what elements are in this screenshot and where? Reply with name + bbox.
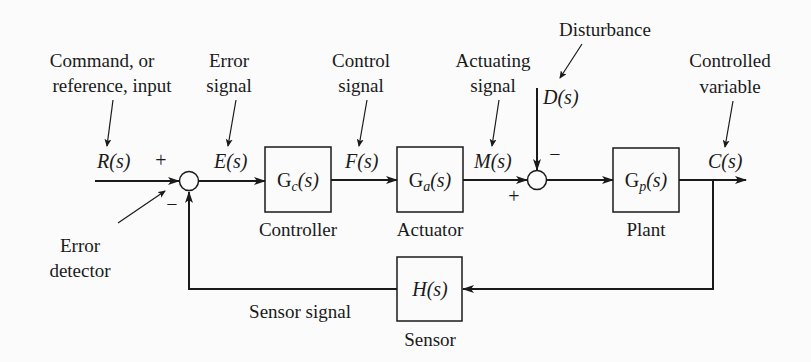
plant-block: Gp(s) Plant [613,148,679,240]
control-block-diagram: Command, or reference, input Error signa… [0,0,811,362]
svg-text:variable: variable [699,76,760,97]
svg-text:signal: signal [338,75,383,96]
annotation-controlled-variable: Controlled variable [689,50,771,147]
sensor-block: H(s) Sensor [397,257,462,350]
svg-text:H(s): H(s) [411,278,448,301]
svg-text:Control: Control [332,50,390,71]
annotation-control-signal: Control signal [332,50,390,146]
svg-text:Gp(s): Gp(s) [625,169,668,194]
pointer-arrow-icon [228,100,236,146]
block-label: Controller [259,219,338,240]
svg-text:detector: detector [49,260,111,281]
block-label: Actuator [397,219,464,240]
svg-text:Command, or: Command, or [50,50,155,71]
svg-text:Error: Error [60,235,101,256]
svg-text:Ga(s): Ga(s) [409,169,452,194]
sign-plus-actuating: + [508,185,519,207]
svg-text:reference, input: reference, input [52,75,172,96]
svg-text:signal: signal [470,75,515,96]
controller-block: Gc(s) Controller [259,147,338,240]
disturbance-summing-junction [528,171,547,190]
actuator-block: Ga(s) Actuator [397,147,464,240]
annotation-error-signal: Error signal [206,50,251,146]
pointer-arrow-icon [492,100,499,146]
svg-text:Controlled: Controlled [689,50,771,71]
sensor-signal-label: Sensor signal [249,301,351,322]
annotation-actuating-signal: Actuating signal [456,50,531,146]
svg-text:Error: Error [209,50,250,71]
svg-text:Gc(s): Gc(s) [277,169,319,194]
sign-minus-disturbance: − [549,143,560,165]
svg-text:signal: signal [206,75,251,96]
pointer-arrow-icon [107,100,113,146]
pointer-arrow-icon [359,100,367,146]
annotation-error-detector: Error detector [49,191,165,281]
signal-label-actuating: M(s) [473,150,512,173]
feedback-to-sensor-line [463,180,713,289]
block-label: Sensor [404,329,456,350]
svg-text:Disturbance: Disturbance [559,19,651,40]
signal-label-error: E(s) [213,150,248,173]
signal-label-disturbance: D(s) [542,86,579,109]
pointer-arrow-icon [725,101,733,147]
annotation-disturbance: Disturbance [559,19,651,78]
svg-text:Actuating: Actuating [456,50,531,71]
signal-label-output: C(s) [708,150,743,173]
sensor-signal-line [189,192,397,289]
annotation-command-input: Command, or reference, input [50,50,173,146]
error-detector-junction [180,172,199,191]
pointer-arrow-icon [118,191,165,223]
pointer-arrow-icon [560,44,582,78]
signal-label-input: R(s) [96,150,131,173]
signal-label-control: F(s) [344,150,379,173]
sign-minus-feedback: − [166,193,177,215]
sign-plus-input: + [155,149,166,171]
block-label: Plant [626,219,666,240]
